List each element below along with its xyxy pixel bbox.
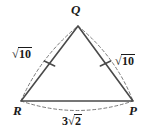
tick-mark-rq: [44, 61, 54, 66]
radicand-qp: 10: [121, 54, 135, 67]
radicand-rq: 10: [18, 47, 32, 60]
vertex-label-p: P: [129, 104, 137, 117]
radical-expression-rp: √2: [68, 114, 82, 127]
side-length-label-rq: √10: [12, 47, 32, 60]
dashed-arc-rp: [21, 101, 133, 111]
tick-mark-qp: [100, 61, 110, 66]
radical-expression-rq: √10: [12, 47, 32, 60]
radical-expression-qp: √10: [115, 54, 135, 67]
side-length-label-rp: 3 √2: [62, 114, 82, 127]
geometry-figure: Q R P √10 √10 3 √2: [0, 0, 152, 132]
side-length-label-qp: √10: [115, 54, 135, 67]
vertex-label-r: R: [13, 104, 22, 117]
vertex-label-q: Q: [71, 3, 80, 16]
radicand-rp: 2: [74, 114, 82, 127]
